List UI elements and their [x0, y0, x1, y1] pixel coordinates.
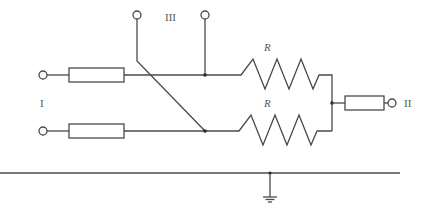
output-impedance: [345, 96, 384, 110]
label-port-input: I: [40, 97, 44, 109]
input-impedance-bottom: [69, 124, 124, 138]
ground-icon: [263, 197, 277, 202]
circuit-diagram: I II III R R: [0, 0, 426, 208]
input-terminal-bottom-icon: [39, 127, 47, 135]
output-terminal-icon: [388, 99, 396, 107]
input-impedance-top: [69, 68, 124, 82]
label-port-output: II: [404, 97, 412, 109]
control-terminal-left-icon: [133, 11, 141, 19]
control-terminal-right-icon: [201, 11, 209, 19]
ground-rail: [0, 171, 400, 202]
input-terminal-top-icon: [39, 71, 47, 79]
control-branch: [133, 11, 209, 133]
output-branch: [330, 96, 396, 110]
resistor-top: [235, 59, 332, 131]
label-resistor-top: R: [263, 41, 271, 53]
resistor-bottom: [233, 115, 332, 145]
junction-dot-top: [203, 73, 207, 77]
junction-dot-bottom: [203, 129, 207, 133]
label-resistor-bottom: R: [263, 97, 271, 109]
label-port-control: III: [165, 11, 176, 23]
